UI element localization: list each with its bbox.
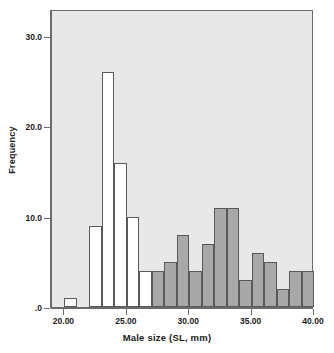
histogram-bar xyxy=(64,298,76,307)
histogram-bar xyxy=(302,271,314,307)
y-tick-mark xyxy=(44,127,50,128)
histogram-bar xyxy=(202,244,214,307)
histogram-bar xyxy=(214,208,226,307)
y-tick-mark xyxy=(44,308,50,309)
x-tick-label: 25.00 xyxy=(101,317,151,326)
plot-area xyxy=(51,10,313,308)
y-tick-mark xyxy=(44,218,50,219)
y-tick-mark xyxy=(44,37,50,38)
histogram-bar xyxy=(189,271,201,307)
x-tick-label: 30.00 xyxy=(163,317,213,326)
histogram-bar xyxy=(227,208,239,307)
y-tick-label: .0 xyxy=(0,304,42,313)
x-tick-mark xyxy=(251,309,252,315)
x-tick-mark xyxy=(313,309,314,315)
bars-layer xyxy=(52,11,312,307)
y-axis-line xyxy=(50,10,51,308)
histogram-bar xyxy=(164,262,176,307)
histogram-bar xyxy=(252,253,264,307)
histogram-bar xyxy=(114,163,126,307)
histogram-bar xyxy=(289,271,301,307)
histogram-bar xyxy=(139,271,151,307)
histogram-bar xyxy=(152,271,164,307)
y-axis-title: Frequency xyxy=(7,90,17,210)
x-tick-mark xyxy=(63,309,64,315)
histogram-figure: 30.020.010.0.0 Frequency 20.0025.0030.00… xyxy=(0,0,334,353)
histogram-bar xyxy=(89,226,101,307)
histogram-bar xyxy=(127,217,139,307)
x-axis-line xyxy=(51,308,313,309)
x-tick-mark xyxy=(188,309,189,315)
y-tick-label: 10.0 xyxy=(0,213,42,222)
histogram-bar xyxy=(239,280,251,307)
x-tick-label: 20.00 xyxy=(38,317,88,326)
histogram-bar xyxy=(277,289,289,307)
histogram-bar xyxy=(102,72,114,307)
histogram-bar xyxy=(177,235,189,307)
histogram-bar xyxy=(264,262,276,307)
x-tick-mark xyxy=(126,309,127,315)
x-tick-label: 40.00 xyxy=(288,317,334,326)
x-tick-label: 35.00 xyxy=(226,317,276,326)
x-axis-title: Male size (SL, mm) xyxy=(0,332,334,343)
y-tick-label: 30.0 xyxy=(0,33,42,42)
